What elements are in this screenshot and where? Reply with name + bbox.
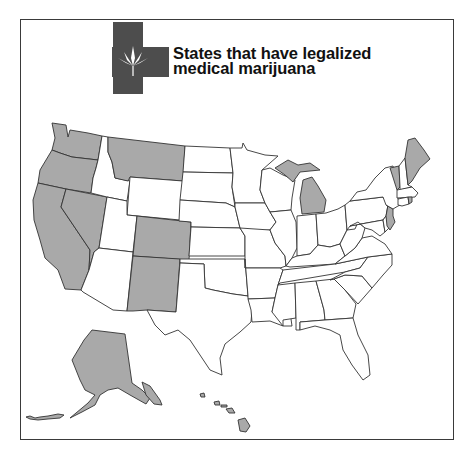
state-hawaii-big-island[interactable] — [238, 418, 250, 432]
state-maine[interactable] — [405, 138, 430, 185]
state-hawaii-kauai[interactable] — [200, 393, 205, 397]
state-kansas — [189, 227, 245, 256]
us-map — [0, 0, 475, 459]
state-wyoming — [127, 177, 183, 220]
state-connecticut — [398, 197, 409, 206]
state-florida — [300, 318, 370, 380]
state-rhode-island[interactable] — [408, 197, 412, 204]
state-colorado[interactable] — [133, 216, 191, 260]
state-hawaii-oahu[interactable] — [214, 401, 220, 405]
state-new-mexico[interactable] — [127, 256, 180, 312]
state-alaska[interactable] — [70, 330, 150, 418]
state-michigan[interactable] — [300, 177, 326, 214]
state-hawaii-molokai[interactable] — [221, 405, 227, 407]
state-north-dakota — [183, 146, 233, 173]
state-montana[interactable] — [108, 137, 185, 181]
alaska-aleutians[interactable] — [26, 414, 64, 420]
state-hawaii-maui[interactable] — [226, 408, 235, 413]
